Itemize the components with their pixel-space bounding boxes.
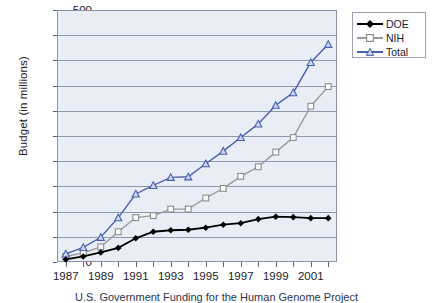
data-point-doe bbox=[115, 245, 122, 252]
data-point-total bbox=[325, 41, 332, 48]
legend-label-doe: DOE bbox=[386, 18, 409, 30]
x-axis-tick-mark bbox=[241, 262, 242, 267]
plot-area bbox=[57, 10, 337, 262]
data-point-nih bbox=[133, 215, 139, 221]
data-point-doe bbox=[220, 221, 227, 228]
x-axis-tick-mark bbox=[206, 262, 207, 267]
data-point-nih bbox=[203, 195, 209, 201]
nih-marker-icon bbox=[357, 32, 383, 44]
data-point-doe bbox=[272, 213, 279, 220]
series-line-doe bbox=[66, 217, 329, 260]
data-point-doe bbox=[237, 220, 244, 227]
legend-item-doe[interactable]: DOE bbox=[357, 17, 422, 30]
x-axis-tick-mark bbox=[118, 262, 119, 267]
data-point-doe bbox=[150, 228, 157, 235]
legend-item-nih[interactable]: NIH bbox=[357, 31, 422, 44]
legend-label-nih: NIH bbox=[386, 32, 404, 44]
data-point-doe bbox=[255, 216, 262, 223]
chart-legend: DOE NIH Total bbox=[352, 12, 426, 58]
x-axis-tick-mark bbox=[171, 262, 172, 267]
data-point-nih bbox=[220, 186, 226, 192]
total-marker-icon bbox=[357, 46, 383, 58]
data-point-doe bbox=[185, 226, 192, 233]
series-lines bbox=[57, 10, 337, 262]
data-point-nih bbox=[168, 206, 174, 212]
data-point-nih bbox=[185, 206, 191, 212]
x-axis-tick-mark bbox=[311, 262, 312, 267]
x-axis-tick-mark bbox=[293, 262, 294, 267]
data-point-nih bbox=[290, 135, 296, 141]
series-line-nih bbox=[66, 87, 329, 257]
x-axis-tick-label: 2001 bbox=[289, 270, 333, 282]
data-point-nih bbox=[273, 149, 279, 155]
data-point-total bbox=[132, 190, 139, 197]
y-axis-label: Budget (in millions) bbox=[17, 21, 29, 191]
data-point-doe bbox=[307, 215, 314, 222]
legend-item-total[interactable]: Total bbox=[357, 45, 422, 58]
x-axis-tick-mark bbox=[83, 262, 84, 267]
data-point-nih bbox=[308, 103, 314, 109]
data-point-total bbox=[150, 182, 157, 189]
x-axis-tick-mark bbox=[153, 262, 154, 267]
data-point-doe bbox=[290, 214, 297, 221]
data-point-total bbox=[290, 89, 297, 96]
x-axis-tick-mark bbox=[328, 262, 329, 267]
x-axis-tick-mark bbox=[66, 262, 67, 267]
data-point-nih bbox=[255, 164, 261, 170]
series-line-total bbox=[66, 44, 329, 254]
legend-label-total: Total bbox=[386, 46, 408, 58]
figure-caption: U.S. Government Funding for the Human Ge… bbox=[0, 291, 433, 303]
y-axis-tick-mark bbox=[53, 262, 57, 263]
data-point-nih bbox=[238, 173, 244, 179]
data-point-doe bbox=[132, 235, 139, 242]
data-point-doe bbox=[202, 224, 209, 231]
data-point-total bbox=[80, 244, 87, 251]
data-point-nih bbox=[115, 229, 121, 235]
x-axis-tick-mark bbox=[101, 262, 102, 267]
x-axis-tick-mark bbox=[258, 262, 259, 267]
x-axis-tick-mark bbox=[276, 262, 277, 267]
data-point-nih bbox=[325, 84, 331, 90]
doe-marker-icon bbox=[357, 18, 383, 30]
data-point-nih bbox=[150, 213, 156, 219]
x-axis-tick-mark bbox=[188, 262, 189, 267]
data-point-doe bbox=[325, 215, 332, 222]
data-point-doe bbox=[167, 227, 174, 234]
data-point-nih bbox=[98, 244, 104, 250]
x-axis-tick-mark bbox=[136, 262, 137, 267]
x-axis-tick-mark bbox=[223, 262, 224, 267]
